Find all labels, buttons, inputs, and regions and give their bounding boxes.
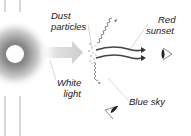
frame-lines-bottom [5,96,20,136]
dust-particles-label: Dust particles [51,11,86,32]
white-light-label: White light [57,78,81,99]
dust-particles-icon [88,43,96,63]
blue-sky-label: Blue sky [129,97,165,108]
red-light-arrowheads [141,47,146,61]
blue-light-wave-up-icon [97,18,117,43]
eye-icon-sunset [162,48,173,60]
white-label-line2: light [57,89,81,100]
red-light-wave-icon [96,47,142,59]
red-label-line1: Red [152,15,175,26]
dust-label-line1: Dust [51,11,86,22]
eye-icon-sky [105,106,118,119]
frame-lines-top [5,0,20,12]
red-sunset-label: Red sunset [152,15,175,36]
white-label-line1: White [57,78,81,89]
dust-label-line2: particles [51,22,86,33]
blue-light-wave-down-icon [94,62,101,84]
red-label-line2: sunset [146,26,175,37]
light-scattering-diagram: Dust particles Red sunset White light Bl… [0,0,191,136]
